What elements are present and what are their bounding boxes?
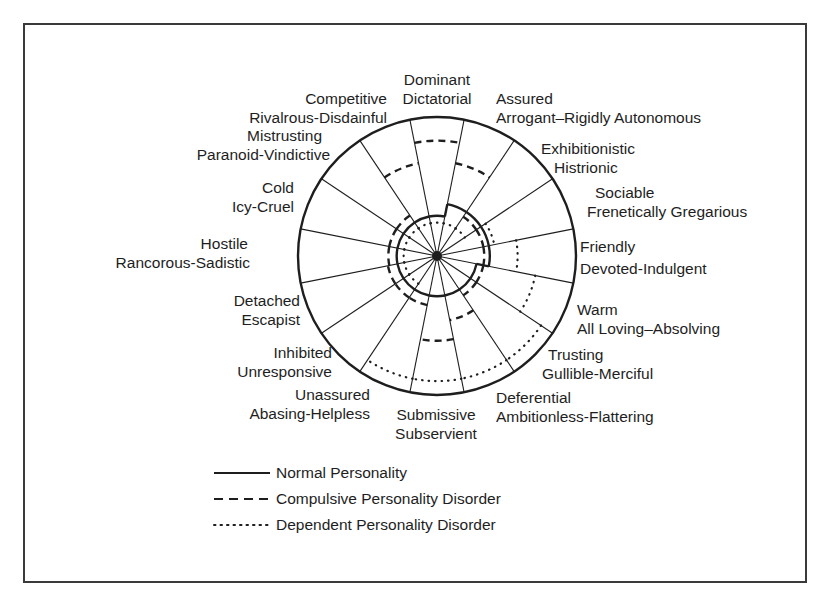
profile-arc-dotted	[461, 360, 506, 379]
label-mistrusting: MistrustingParanoid-Vindictive	[150, 126, 330, 164]
label-competitive: CompetitiveRivalrous-Disdainful	[200, 89, 387, 127]
profile-arc-dashed	[384, 163, 418, 177]
label-detached: DetachedEscapist	[200, 291, 300, 329]
label-assured: AssuredArrogant–Rigidly Autonomous	[496, 89, 701, 127]
profile-arc-solid	[397, 248, 398, 264]
profile-arc-solid	[429, 216, 445, 217]
label-submissive: SubmissiveSubservient	[386, 405, 486, 443]
legend: Normal Personality Compulsive Personalit…	[212, 460, 501, 538]
label-cold: ColdIcy-Cruel	[200, 178, 294, 216]
profile-arc-dotted	[456, 228, 465, 237]
profile-arc-dotted	[404, 237, 409, 249]
profile-arc-dashed	[420, 339, 453, 341]
label-dominant: DominantDictatorial	[395, 70, 479, 108]
profile-arc-dashed	[409, 298, 427, 305]
profile-arc-solid	[397, 234, 403, 249]
profile-arc-solid	[429, 296, 445, 297]
profile-step-solid	[445, 204, 447, 216]
profile-arc-dashed	[455, 163, 489, 177]
profile-arc-solid	[397, 264, 403, 279]
profile-arc-dotted	[418, 223, 430, 228]
legend-item-dependent: Dependent Personality Disorder	[212, 512, 501, 538]
legend-item-normal: Normal Personality	[212, 460, 501, 486]
profile-arc-dotted	[444, 223, 456, 228]
label-unassured: UnassuredAbasing-Helpless	[218, 385, 370, 423]
profile-arc-solid	[489, 246, 490, 267]
profile-arc-solid	[445, 290, 460, 296]
profile-arc-dashed	[450, 310, 474, 320]
dashed-line-icon	[212, 494, 272, 504]
profile-arc-solid	[459, 278, 470, 289]
profile-arc-solid	[415, 290, 430, 296]
profile-arc-dotted	[409, 228, 418, 237]
profile-arc-dotted	[404, 263, 409, 275]
label-deferential: DeferentialAmbitionless-Flattering	[496, 388, 654, 426]
label-exhibitionistic: ExhibitionisticHistrionic	[541, 139, 635, 177]
profile-arc-dashed	[388, 247, 389, 266]
label-sociable: SociableFrenetically Gregarious	[587, 183, 747, 221]
profile-arc-dashed	[483, 247, 484, 265]
profile-arc-dashed	[389, 229, 396, 247]
profile-arc-solid	[471, 264, 477, 279]
profile-arc-solid	[447, 204, 466, 212]
dotted-line-icon	[212, 520, 272, 530]
label-inhibited: InhibitedUnresponsive	[200, 343, 332, 381]
profile-arc-dotted	[430, 223, 443, 224]
profile-arc-dotted	[520, 276, 535, 312]
profile-arc-dotted	[404, 249, 405, 262]
label-friendly: FriendlyDevoted-Indulgent	[580, 236, 707, 280]
legend-item-compulsive: Compulsive Personality Disorder	[212, 486, 501, 512]
label-warm: WarmAll Loving–Absolving	[577, 300, 720, 338]
profile-arc-dashed	[414, 141, 459, 143]
label-hostile: HostileRancorous-Sadistic	[90, 234, 250, 272]
solid-line-icon	[212, 468, 272, 478]
profile-arc-dashed	[476, 265, 483, 282]
profile-arc-dashed	[395, 284, 409, 298]
profile-arc-dotted	[413, 379, 462, 381]
profile-arc-dotted	[516, 240, 518, 271]
profile-arc-dashed	[476, 230, 483, 247]
profile-arc-dashed	[388, 266, 395, 284]
profile-arc-dotted	[367, 360, 412, 379]
profile-arc-solid	[415, 216, 430, 222]
center-hub	[432, 251, 442, 261]
profile-arc-dotted	[409, 275, 418, 284]
label-trusting: TrustingGullible-Merciful	[542, 345, 653, 383]
